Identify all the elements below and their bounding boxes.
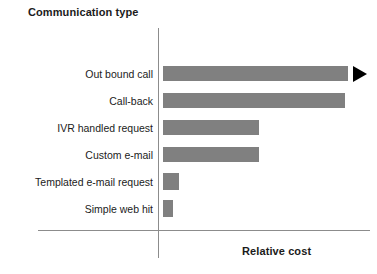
bar-label: Simple web hit (0, 195, 153, 222)
bar (163, 173, 179, 190)
bar-label: Call-back (0, 87, 153, 114)
bar-container (163, 195, 173, 222)
bar-label: Custom e-mail (0, 141, 153, 168)
bar-container (163, 60, 367, 87)
x-axis-title: Relative cost (242, 245, 311, 257)
bar-chart: Communication type Out bound callCall-ba… (0, 0, 377, 274)
bar-row: IVR handled request (0, 114, 377, 141)
bar (163, 147, 259, 162)
triangle-right-icon (353, 66, 367, 82)
bar-label: Templated e-mail request (0, 168, 153, 195)
bar-row: Templated e-mail request (0, 168, 377, 195)
bar-container (163, 168, 179, 195)
bar-row: Out bound call (0, 60, 377, 87)
bar-rows: Out bound callCall-backIVR handled reque… (0, 0, 377, 274)
bar-container (163, 114, 259, 141)
bar-row: Call-back (0, 87, 377, 114)
bar-container (163, 141, 259, 168)
bar (163, 66, 348, 81)
bar-row: Simple web hit (0, 195, 377, 222)
bar-row: Custom e-mail (0, 141, 377, 168)
bar-label: IVR handled request (0, 114, 153, 141)
bar (163, 120, 259, 135)
bar (163, 200, 173, 217)
bar-label: Out bound call (0, 60, 153, 87)
bar-container (163, 87, 345, 114)
bar (163, 93, 345, 108)
